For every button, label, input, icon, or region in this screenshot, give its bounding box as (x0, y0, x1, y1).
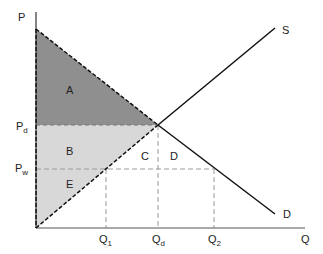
x-axis-label: Q (301, 233, 310, 245)
qd-label: Qd (152, 233, 165, 248)
supply-curve (158, 28, 275, 125)
region-d-label: D (170, 150, 178, 162)
pd-label: Pd (16, 120, 28, 135)
q1-label: Q1 (99, 233, 113, 248)
y-axis-label: P (18, 11, 25, 23)
region-a-label: A (66, 84, 74, 96)
region-e-label: E (66, 178, 73, 190)
demand-label: D (283, 208, 291, 220)
supply-label: S (282, 24, 289, 36)
region-b-label: B (66, 145, 73, 157)
pw-label: Pw (15, 162, 28, 177)
region-c-label: C (141, 150, 149, 162)
supply-demand-diagram: P Q S D Pd Pw Q1 Qd Q2 A B C D E (0, 0, 323, 254)
q2-label: Q2 (208, 233, 222, 248)
